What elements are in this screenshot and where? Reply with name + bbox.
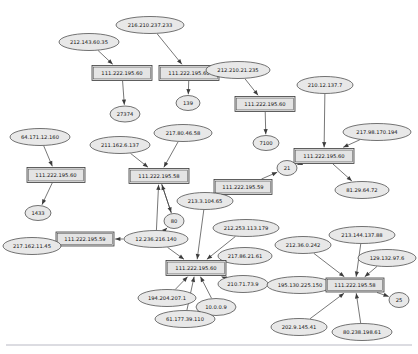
- graph-edge[interactable]: [314, 253, 345, 276]
- graph-edge[interactable]: [365, 266, 377, 276]
- graph-node-212-253-113-179[interactable]: 212.253.113.179: [213, 220, 279, 237]
- graph-edge[interactable]: [44, 146, 53, 166]
- graph-node-217-80-46-58[interactable]: 217.80.46.58: [154, 125, 212, 142]
- graph-node-111-222-195-59[interactable]: 111.222.195.59: [214, 180, 272, 195]
- edge-arrowhead: [253, 90, 258, 95]
- network-graph[interactable]: 216.210.237.233212.143.60.35111.222.195.…: [0, 0, 418, 354]
- graph-node-213-3-104-65[interactable]: 213.3.104.65: [177, 193, 233, 210]
- node-shape-ellipse: [329, 227, 395, 244]
- graph-node-80[interactable]: 80: [164, 214, 184, 229]
- edge-arrowhead: [339, 272, 344, 277]
- graph-node-139[interactable]: 139: [176, 96, 200, 111]
- node-shape-ellipse: [213, 220, 279, 237]
- graph-node-111-222-195-58[interactable]: 111.222.195.58: [326, 278, 384, 292]
- graph-edge[interactable]: [156, 185, 160, 230]
- graph-edge[interactable]: [168, 247, 184, 259]
- graph-edge[interactable]: [343, 140, 360, 148]
- graph-node-111-222-195-60[interactable]: 111.222.195.60: [235, 97, 295, 112]
- graph-edge[interactable]: [162, 185, 172, 214]
- graph-edge[interactable]: [131, 153, 148, 167]
- graph-node-211-162-6-137[interactable]: 211.162.6.137: [90, 137, 150, 154]
- edge-arrowhead: [355, 271, 359, 276]
- edge-arrowhead: [156, 185, 160, 190]
- edge-arrowhead: [339, 293, 344, 298]
- graph-node-111-222-195-58[interactable]: 111.222.195.58: [129, 169, 189, 184]
- graph-node-61-177-39-110[interactable]: 61.177.39.110: [155, 311, 215, 328]
- graph-node-111-222-195-60[interactable]: 111.222.195.60: [27, 168, 85, 183]
- graph-edge[interactable]: [200, 277, 211, 299]
- node-shape-box: [27, 168, 85, 183]
- graph-node-217-98-170-194[interactable]: 217.98.170.194: [343, 124, 411, 141]
- nodes-layer: 216.210.237.233212.143.60.35111.222.195.…: [3, 17, 416, 341]
- graph-node-216-210-237-233[interactable]: 216.210.237.233: [116, 17, 184, 34]
- graph-node-194-204-207-1[interactable]: 194.204.207.1: [138, 290, 196, 307]
- node-shape-ellipse: [297, 77, 353, 94]
- graph-node-195-130-225-150[interactable]: 195.130.225.150: [267, 277, 333, 294]
- node-shape-ellipse: [343, 124, 411, 141]
- graph-node-111-222-195-60[interactable]: 111.222.195.60: [92, 66, 152, 81]
- edge-arrowhead: [115, 237, 120, 241]
- diagram-canvas: 216.210.237.233212.143.60.35111.222.195.…: [0, 0, 418, 354]
- node-shape-ellipse: [332, 324, 392, 341]
- node-shape-box: [129, 169, 189, 184]
- graph-node-7100[interactable]: 7100: [253, 136, 279, 151]
- graph-edge[interactable]: [262, 172, 278, 179]
- edge-arrowhead: [200, 277, 204, 283]
- graph-edge[interactable]: [310, 293, 344, 319]
- node-shape-ellipse: [138, 290, 196, 307]
- graph-node-213-144-137-88[interactable]: 213.144.137.88: [329, 227, 395, 244]
- edge-arrowhead: [162, 185, 166, 191]
- graph-edge[interactable]: [333, 164, 352, 181]
- graph-edge[interactable]: [42, 183, 52, 205]
- graph-edge[interactable]: [115, 237, 123, 241]
- node-shape-ellipse: [358, 250, 416, 267]
- edge-arrowhead: [207, 254, 212, 259]
- edge-arrowhead: [122, 99, 126, 104]
- graph-edge[interactable]: [196, 210, 204, 259]
- node-shape-box: [294, 149, 354, 164]
- node-shape-ellipse: [177, 193, 233, 210]
- graph-node-202-9-145-41[interactable]: 202.9.145.41: [271, 319, 327, 336]
- graph-node-81-29-64-72[interactable]: 81.29.64.72: [335, 182, 389, 199]
- graph-edge[interactable]: [186, 81, 190, 94]
- edge-arrowhead: [191, 277, 195, 283]
- node-shape-ellipse: [110, 106, 140, 122]
- edge-arrowhead: [186, 89, 190, 94]
- graph-edge[interactable]: [164, 142, 178, 167]
- graph-node-129-132-97-6[interactable]: 129.132.97.6: [358, 250, 416, 267]
- graph-edge[interactable]: [355, 293, 361, 323]
- graph-node-217-162-11-45[interactable]: 217.162.11.45: [3, 238, 61, 255]
- edge-arrowhead: [355, 293, 359, 298]
- graph-node-21[interactable]: 21: [277, 161, 297, 176]
- graph-node-80-238-198-61[interactable]: 80.238.198.61: [332, 324, 392, 341]
- graph-edge[interactable]: [245, 79, 258, 96]
- graph-node-210-71-73-9[interactable]: 210.71.73.9: [218, 276, 268, 293]
- node-shape-ellipse: [25, 206, 51, 221]
- graph-node-111-222-195-60[interactable]: 111.222.195.60: [166, 261, 226, 276]
- graph-edge[interactable]: [377, 293, 389, 297]
- graph-node-64-171-12-160[interactable]: 64.171.12.160: [10, 129, 70, 146]
- graph-node-111-222-195-59[interactable]: 111.222.195.59: [56, 232, 114, 246]
- graph-edge[interactable]: [175, 277, 187, 290]
- graph-node-27374[interactable]: 27374: [110, 106, 140, 122]
- edge-arrowhead: [272, 172, 278, 176]
- graph-node-212-143-60-35[interactable]: 212.143.60.35: [59, 34, 119, 51]
- node-shape-box: [166, 261, 226, 276]
- edge-arrowhead: [322, 142, 326, 147]
- graph-edge[interactable]: [122, 81, 126, 105]
- graph-edge[interactable]: [322, 94, 326, 147]
- edge-arrowhead: [264, 129, 268, 134]
- node-shape-ellipse: [154, 125, 212, 142]
- graph-edge[interactable]: [98, 51, 113, 65]
- graph-edge[interactable]: [264, 112, 268, 134]
- graph-edge[interactable]: [157, 34, 182, 65]
- graph-node-210-12-137-7[interactable]: 210.12.137.7: [297, 77, 353, 94]
- graph-node-212-36-0-242[interactable]: 212.36.0.242: [275, 237, 331, 254]
- node-shape-box: [214, 180, 272, 195]
- graph-node-12-236-216-140[interactable]: 12.236.216.140: [124, 231, 188, 248]
- graph-node-111-222-195-60[interactable]: 111.222.195.60: [294, 149, 354, 164]
- graph-node-25[interactable]: 25: [389, 293, 409, 308]
- graph-node-212-210-21-235[interactable]: 212.210.21.235: [206, 62, 270, 79]
- node-shape-ellipse: [277, 161, 297, 176]
- graph-node-1433[interactable]: 1433: [25, 206, 51, 221]
